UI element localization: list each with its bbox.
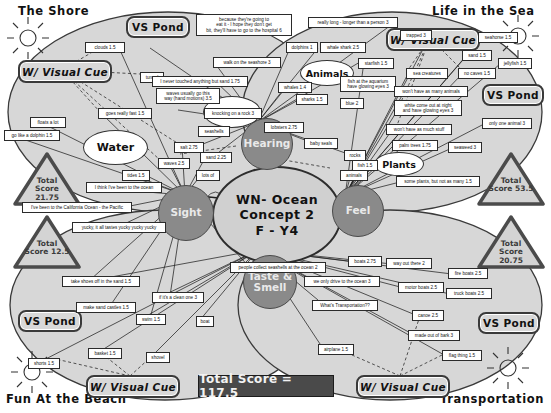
- label-tides[interactable]: tides 1.5: [122, 170, 150, 181]
- label-sand-middle[interactable]: sand 2.25: [200, 152, 232, 163]
- label-walk-seashore[interactable]: walk on the seashore 3: [213, 57, 281, 68]
- sun-icon-transportation: [487, 347, 529, 389]
- label-sharks[interactable]: sharks 1.5: [296, 94, 328, 105]
- label-think-been-ocean[interactable]: I think I've been to the ocean: [86, 182, 162, 193]
- label-fire-boats[interactable]: fire boats 2.5: [448, 268, 488, 279]
- label-go-like-dolphin[interactable]: go like a dolphin 1.5: [4, 130, 60, 141]
- score-badge-the-shore: Total Score 21.75: [14, 152, 80, 206]
- concept-node-plants[interactable]: Plants: [374, 152, 424, 176]
- label-really-long[interactable]: really long - longer than a person 3: [308, 17, 398, 28]
- label-waves-hand[interactable]: waves usually go this way (hand motions)…: [156, 88, 220, 104]
- label-palm-trees[interactable]: palm trees 1.75: [392, 140, 438, 151]
- central-hub-node[interactable]: WN- Ocean Concept 2 F - Y4: [212, 166, 342, 264]
- label-swim[interactable]: swim 1.5: [136, 314, 166, 325]
- label-seahorse[interactable]: seahorse 1.5: [478, 32, 518, 43]
- label-way-out-there[interactable]: way out there 2: [386, 258, 432, 269]
- label-yucky[interactable]: yucky, it all tastes yucky yucky yucky: [72, 222, 166, 233]
- label-whats-transportation[interactable]: What's Transportation??: [312, 300, 378, 311]
- sense-node-feel[interactable]: Feel: [332, 185, 384, 237]
- label-whales[interactable]: whales 1.4: [278, 82, 312, 93]
- label-we-only-drive[interactable]: we only drive to the ocean 3: [304, 276, 380, 287]
- label-wont-animals[interactable]: won't have as many animals: [394, 86, 468, 97]
- label-only-one-animal[interactable]: only one animal 3: [482, 118, 532, 129]
- score-badge-fun-at-the-beach: Total Score 12.5: [14, 215, 80, 269]
- label-baby-seals[interactable]: baby seals: [304, 138, 338, 149]
- label-starfish[interactable]: starfish 1.5: [358, 58, 394, 69]
- label-motor-boats[interactable]: motor boats 2.5: [398, 282, 444, 293]
- label-goes-really-fast[interactable]: goes really fast 1.5: [98, 108, 152, 119]
- concept-label-plants: Plants: [382, 159, 416, 170]
- plate-visual-cue-bottom-right[interactable]: W/ Visual Cue: [356, 375, 450, 398]
- sense-label-sight: Sight: [170, 207, 201, 218]
- label-lots-of[interactable]: lots of: [196, 170, 220, 181]
- label-dolphins[interactable]: dolphins 1: [286, 42, 318, 53]
- label-boat-small[interactable]: boat: [196, 316, 214, 327]
- label-floats-a-lot[interactable]: floats a lot: [30, 117, 66, 128]
- label-lobsters[interactable]: lobsters 2.75: [264, 122, 304, 133]
- label-whale-shark[interactable]: whale shark 2.5: [320, 42, 366, 53]
- label-seashells[interactable]: seashells: [198, 126, 230, 137]
- total-score-banner: Total Score = 117.5: [198, 375, 334, 397]
- label-flag-thing[interactable]: flag thing 1.5: [442, 350, 482, 361]
- label-some-plants[interactable]: some plants, but not as many 1.5: [396, 176, 480, 187]
- plate-vs-pond-bottom-right[interactable]: VS Pond: [478, 312, 540, 334]
- score-badge-life-in-the-sea: Total Score 53.5: [478, 152, 544, 206]
- score-text-transportation: Total Score 20.75: [478, 240, 544, 266]
- hub-line-3: F - Y4: [255, 223, 298, 239]
- label-basket[interactable]: basket 1.5: [88, 348, 122, 359]
- plate-visual-cue-top-left[interactable]: W/ Visual Cue: [18, 60, 112, 83]
- score-text-life-in-the-sea: Total Score 53.5: [478, 177, 544, 194]
- plate-visual-cue-bottom-left[interactable]: W/ Visual Cue: [86, 375, 180, 398]
- sun-icon-shore: [7, 17, 49, 59]
- corner-title-life-in-the-sea: Life in the Sea: [432, 4, 535, 18]
- label-wont-much-stuff[interactable]: won't have as much stuff: [386, 124, 452, 135]
- label-shorts[interactable]: shorts 1.5: [28, 358, 60, 369]
- label-made-out-of-bark[interactable]: made out of bark 3: [408, 330, 460, 341]
- hub-line-2: Concept 2: [239, 207, 314, 223]
- plate-vs-pond-top-left[interactable]: VS Pond: [126, 16, 190, 38]
- concept-map-canvas: .big{fill:#d7d7d7;stroke:#3a3a3a;stroke-…: [0, 0, 551, 413]
- corner-title-the-shore: The Shore: [18, 4, 89, 18]
- label-canoe[interactable]: canoe 2.5: [412, 310, 444, 321]
- concept-label-water: Water: [97, 141, 134, 154]
- label-seaweed[interactable]: seaweed 3: [448, 142, 482, 153]
- label-knocking-rock[interactable]: knocking on a rock 3: [204, 108, 262, 119]
- label-sand-right[interactable]: sand 1.5: [462, 50, 492, 61]
- score-badge-transportation: Total Score 20.75: [478, 215, 544, 269]
- label-trapped[interactable]: trapped 3: [400, 30, 432, 41]
- label-make-sand-castles[interactable]: make sand castles 1.5: [76, 302, 136, 313]
- label-white-night[interactable]: white come out at night and have glowing…: [394, 100, 462, 116]
- label-clouds[interactable]: clouds 1.5: [85, 42, 125, 53]
- label-never-touched[interactable]: I never touched anything but sand 1.75: [152, 76, 248, 87]
- label-people-collect[interactable]: people collect seashells at the ocean 2: [230, 262, 326, 273]
- label-because-hospital[interactable]: because they're going to eat it - I hope…: [196, 14, 292, 36]
- concept-node-water[interactable]: Water: [83, 130, 148, 165]
- label-no-caves[interactable]: no caves 1.5: [458, 68, 496, 79]
- score-text-the-shore: Total Score 21.75: [14, 177, 80, 203]
- label-shovel[interactable]: shovel: [146, 352, 170, 363]
- label-take-shoes-off[interactable]: take shoes off in the sand 1.5: [62, 276, 140, 287]
- label-if-its-clean[interactable]: if it's a clean one 3: [152, 292, 204, 303]
- score-text-fun-at-the-beach: Total Score 12.5: [14, 240, 80, 257]
- label-california-ocean[interactable]: I've been to the California Ocean - the …: [22, 202, 132, 213]
- sense-label-hearing: Hearing: [244, 138, 291, 149]
- label-boats[interactable]: boats 2.75: [348, 256, 382, 267]
- plate-vs-pond-top-right[interactable]: VS Pond: [482, 84, 544, 106]
- label-animals-small[interactable]: animals: [340, 170, 368, 181]
- sense-label-feel: Feel: [346, 205, 371, 216]
- corner-title-transportation: Transportation: [440, 392, 544, 406]
- label-jellyfish[interactable]: jellyfish 1.5: [498, 58, 532, 69]
- label-waves[interactable]: waves 2.5: [158, 158, 190, 169]
- sense-node-sight[interactable]: Sight: [158, 185, 214, 241]
- hub-line-1: WN- Ocean: [236, 192, 318, 208]
- label-sea-creatures[interactable]: sea creatures: [406, 68, 448, 79]
- label-aquarium-eyes[interactable]: fish at the aquarium have glowing eyes 3: [340, 76, 396, 92]
- sense-label-taste-and-smell: Taste & Smell: [248, 271, 292, 293]
- label-airplane[interactable]: airplane 1.5: [318, 344, 354, 355]
- label-blue[interactable]: blue 2: [340, 98, 364, 109]
- plate-vs-pond-bottom-left[interactable]: VS Pond: [18, 310, 82, 332]
- label-truck-boats[interactable]: truck boats 2.5: [446, 288, 492, 299]
